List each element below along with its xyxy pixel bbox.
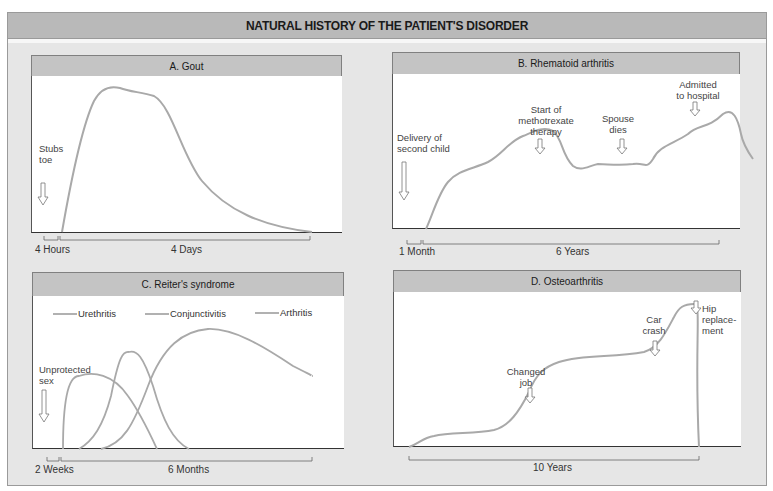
timeline-label-6-years: 6 Years: [556, 246, 589, 257]
annotation-hip-replacement: Hip replace- ment: [702, 303, 736, 336]
annotation-stubs-toe: Stubs toe: [39, 143, 63, 165]
timeline-label-6-months: 6 Months: [168, 464, 209, 475]
annotation-spouse-dies: Spouse dies: [598, 113, 638, 135]
annotation-unprotected-sex: Unprotected sex: [39, 364, 91, 386]
plot-area: [393, 292, 741, 447]
legend-conjunctivitis: Conjunctivitis: [170, 308, 226, 319]
annotation-changed-job: Changed job: [501, 366, 551, 388]
osteoarthritis-curve: [394, 292, 742, 447]
header-divider: [8, 39, 766, 43]
plot-area: [31, 76, 342, 233]
timeline-label-2-weeks: 2 Weeks: [35, 464, 74, 475]
panel-osteoarthritis: D. Osteoarthritis Changed job Car crash …: [393, 270, 741, 475]
panel-gout: A. Gout Stubs toe 4 Hours 4 Days: [31, 55, 342, 255]
annotation-delivery-second-child: Delivery of second child: [397, 132, 450, 154]
annotation-admitted-hospital: Admitted to hospital: [668, 79, 728, 101]
panel-title: B. Rhematoid arthritis: [392, 52, 740, 75]
page-title: NATURAL HISTORY OF THE PATIENT'S DISORDE…: [7, 12, 767, 39]
panel-reiters-syndrome: C. Reiter's syndrome Urethritis Conjunct…: [32, 272, 344, 472]
panel-rheumatoid-arthritis: B. Rhematoid arthritis Delivery of secon…: [392, 52, 740, 257]
timeline-label-4-hours: 4 Hours: [35, 244, 70, 255]
annotation-methotrexate: Start of methotrexate therapy: [510, 104, 582, 137]
legend-arthritis: Arthritis: [280, 307, 312, 318]
panel-title: D. Osteoarthritis: [393, 270, 741, 293]
timeline-label-4-days: 4 Days: [171, 244, 202, 255]
annotation-car-crash: Car crash: [636, 314, 672, 336]
legend-urethritis: Urethritis: [78, 308, 116, 319]
panel-title: C. Reiter's syndrome: [32, 272, 344, 297]
gout-curve: [32, 76, 343, 233]
panel-title: A. Gout: [31, 55, 342, 77]
timeline-label-10-years: 10 Years: [533, 462, 572, 473]
timeline-label-1-month: 1 Month: [399, 246, 435, 257]
